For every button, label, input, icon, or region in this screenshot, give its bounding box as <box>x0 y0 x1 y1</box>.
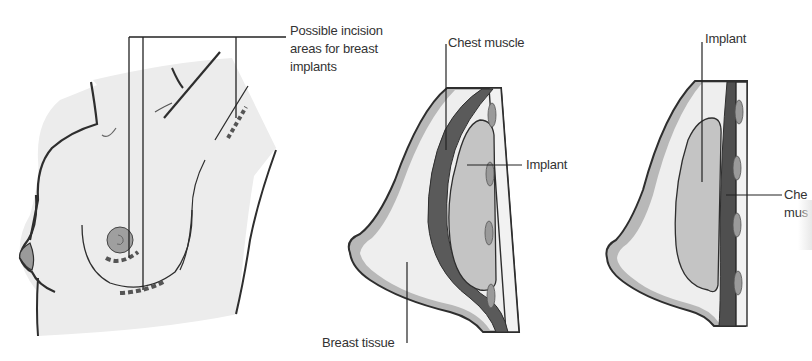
torso-fill <box>20 58 276 336</box>
edge-fade <box>798 200 812 250</box>
label-chest-muscle: Chest muscle <box>448 34 524 52</box>
label-line: areas for breast <box>290 40 383 58</box>
label-incision-areas: Possible incision areas for breast impla… <box>290 22 383 76</box>
breast-implant-diagram <box>0 0 812 361</box>
label-breast-tissue: Breast tissue <box>322 334 395 352</box>
front-lower-outline <box>37 278 38 336</box>
side-view-torso <box>20 37 286 336</box>
subglandular-cross-section <box>606 42 782 326</box>
label-line: Possible incision <box>290 22 383 40</box>
label-line: implants <box>290 58 383 76</box>
label-implant-2: Implant <box>705 30 746 48</box>
submuscular-cross-section <box>349 44 522 343</box>
label-implant: Implant <box>526 156 567 174</box>
